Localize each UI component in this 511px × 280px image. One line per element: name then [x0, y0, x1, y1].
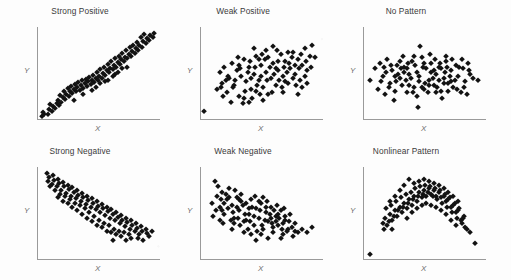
data-point — [278, 51, 283, 56]
data-point — [239, 73, 244, 78]
data-point — [287, 219, 292, 224]
data-point — [232, 221, 237, 226]
data-point — [398, 195, 403, 200]
plot-area — [200, 168, 322, 260]
data-point — [475, 77, 480, 82]
data-point — [448, 68, 453, 73]
data-point — [446, 88, 451, 93]
data-point — [87, 210, 92, 215]
data-point — [249, 232, 254, 237]
data-point — [443, 59, 448, 64]
data-point — [434, 71, 439, 76]
data-point — [250, 95, 255, 100]
data-point — [439, 208, 444, 213]
data-point — [241, 230, 246, 235]
data-point — [404, 90, 409, 95]
data-point — [222, 211, 227, 216]
data-point — [92, 213, 97, 218]
data-point — [267, 64, 272, 69]
data-point — [434, 204, 439, 209]
axis-label-x: X — [421, 264, 426, 273]
data-point — [235, 55, 240, 60]
panel-weak-positive: Weak Positive Y X — [163, 0, 323, 140]
plot-area — [363, 168, 485, 260]
data-point — [141, 237, 146, 242]
data-point — [263, 204, 268, 209]
data-point — [297, 77, 302, 82]
data-point — [266, 235, 271, 240]
data-point — [426, 82, 431, 87]
data-point — [228, 99, 233, 104]
panel-title: Strong Positive — [0, 6, 160, 16]
data-point — [473, 241, 478, 246]
panel-no-pattern: No Pattern Y X — [326, 0, 486, 140]
data-point — [414, 206, 419, 211]
data-point — [407, 176, 412, 181]
data-point — [238, 222, 243, 227]
data-point — [251, 46, 256, 51]
data-point — [453, 222, 458, 227]
data-point — [213, 208, 218, 213]
data-point — [84, 215, 89, 220]
data-point — [441, 81, 446, 86]
data-point — [256, 215, 261, 220]
data-point — [368, 252, 373, 257]
data-point — [254, 237, 259, 242]
axis-label-x: X — [421, 124, 426, 133]
data-point — [450, 210, 455, 215]
data-point — [463, 79, 468, 84]
panel-title: Nonlinear Pattern — [326, 146, 486, 156]
data-point — [262, 57, 267, 62]
data-point — [285, 49, 290, 54]
data-point — [77, 202, 82, 207]
data-point — [277, 77, 282, 82]
data-point — [221, 221, 226, 226]
data-point — [152, 30, 157, 35]
data-point — [289, 55, 294, 60]
data-point — [415, 105, 420, 110]
data-point — [272, 71, 277, 76]
data-point — [296, 66, 301, 71]
data-point — [279, 84, 284, 89]
panel-weak-negative: Weak Negative Y X — [163, 140, 323, 280]
data-point — [429, 60, 434, 65]
axis-label-x: X — [258, 124, 263, 133]
data-point — [382, 92, 387, 97]
data-point — [97, 217, 102, 222]
data-point — [450, 57, 455, 62]
data-point — [290, 234, 295, 239]
plot-area — [37, 168, 159, 260]
data-point — [252, 64, 257, 69]
data-point — [401, 53, 406, 58]
data-point — [280, 90, 285, 95]
data-point — [439, 88, 444, 93]
data-point — [390, 68, 395, 73]
data-point — [229, 60, 234, 65]
data-point — [99, 224, 104, 229]
data-point — [417, 73, 422, 78]
panel-strong-positive: Strong Positive Y X — [0, 0, 160, 140]
panel-strong-negative: Strong Negative Y X — [0, 140, 160, 280]
axis-label-y: Y — [350, 66, 355, 75]
data-point — [409, 210, 414, 215]
data-point — [276, 59, 281, 64]
data-point — [284, 70, 289, 75]
data-point — [393, 79, 398, 84]
data-point — [417, 79, 422, 84]
data-point — [246, 206, 251, 211]
data-point — [294, 82, 299, 87]
data-point — [265, 199, 270, 204]
data-point — [404, 215, 409, 220]
data-point — [300, 84, 305, 89]
data-point — [227, 186, 232, 191]
data-point — [75, 208, 80, 213]
data-point — [230, 210, 235, 215]
data-point — [147, 234, 152, 239]
data-point — [412, 53, 417, 58]
data-point — [257, 208, 262, 213]
data-point — [273, 82, 278, 87]
data-point — [462, 213, 467, 218]
data-point — [252, 193, 257, 198]
data-point — [310, 224, 315, 229]
data-point — [212, 178, 217, 183]
